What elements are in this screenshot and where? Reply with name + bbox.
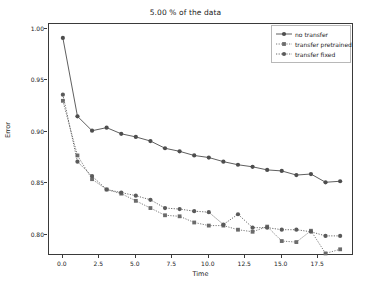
data-point-marker <box>163 146 167 150</box>
y-tick-label: 0.95 <box>14 76 44 83</box>
data-point-marker <box>236 163 240 167</box>
data-point-marker <box>134 135 138 139</box>
data-point-marker <box>134 194 138 198</box>
data-point-marker <box>119 132 123 136</box>
data-point-marker <box>105 126 109 130</box>
x-tick-mark <box>171 255 172 258</box>
y-tick-mark <box>44 79 47 80</box>
chart-legend: no transfertransfer pretrainedtransfer f… <box>271 25 351 63</box>
data-point-marker <box>265 226 269 230</box>
data-point-marker <box>119 190 123 194</box>
x-tick-mark <box>317 255 318 258</box>
y-tick-label: 0.80 <box>14 230 44 237</box>
data-point-marker <box>149 206 153 210</box>
x-tick-mark <box>208 255 209 258</box>
chart-title: 5.00 % of the data <box>0 8 371 17</box>
data-point-marker <box>148 139 152 143</box>
y-tick-label: 1.00 <box>14 24 44 31</box>
series-line <box>63 101 340 254</box>
x-tick-mark <box>244 255 245 258</box>
y-tick-mark <box>44 131 47 132</box>
data-point-marker <box>309 172 313 176</box>
data-point-marker <box>280 239 284 243</box>
x-axis-title: Time <box>48 270 353 278</box>
y-tick-label: 0.85 <box>14 179 44 186</box>
x-axis-tick-labels: 0.02.55.07.510.012.515.017.5 <box>48 256 353 270</box>
x-tick-label: 0.0 <box>47 260 77 267</box>
data-point-marker <box>236 212 240 216</box>
series-line <box>63 95 340 236</box>
x-tick-label: 5.0 <box>120 260 150 267</box>
y-tick-label: 0.90 <box>14 127 44 134</box>
data-point-marker <box>75 114 79 118</box>
data-point-marker <box>192 153 196 157</box>
data-point-marker <box>280 228 284 232</box>
data-point-marker <box>178 214 182 218</box>
legend-item: transfer pretrained <box>275 39 346 49</box>
data-point-marker <box>338 247 342 251</box>
x-tick-label: 10.0 <box>193 260 223 267</box>
data-point-marker <box>338 234 342 238</box>
data-point-marker <box>338 179 342 183</box>
legend-item: transfer fixed <box>275 49 346 59</box>
data-point-marker <box>294 240 298 244</box>
x-tick-mark <box>281 255 282 258</box>
legend-label: no transfer <box>293 31 328 38</box>
data-point-marker <box>324 252 328 256</box>
y-tick-mark <box>44 28 47 29</box>
data-point-marker <box>61 93 65 97</box>
data-point-marker <box>294 173 298 177</box>
x-tick-mark <box>135 255 136 258</box>
data-point-marker <box>134 199 138 203</box>
data-point-marker <box>207 155 211 159</box>
y-tick-mark <box>44 234 47 235</box>
x-tick-label: 2.5 <box>83 260 113 267</box>
data-point-marker <box>192 221 196 225</box>
data-point-marker <box>280 169 284 173</box>
x-tick-label: 12.5 <box>229 260 259 267</box>
series-transfer-fixed <box>61 93 342 238</box>
chart-figure: 5.00 % of the data Error Time 1.000.950.… <box>0 0 371 295</box>
y-axis-tick-labels: 1.000.950.900.850.80 <box>10 23 44 255</box>
data-point-marker <box>90 174 94 178</box>
data-point-marker <box>221 160 225 164</box>
x-tick-label: 15.0 <box>266 260 296 267</box>
data-point-marker <box>90 129 94 133</box>
data-point-marker <box>148 198 152 202</box>
data-point-marker <box>163 206 167 210</box>
data-point-marker <box>61 36 65 40</box>
y-tick-mark <box>44 182 47 183</box>
data-point-marker <box>163 213 167 217</box>
data-point-marker <box>178 207 182 211</box>
data-point-marker <box>207 224 211 228</box>
legend-line-sample <box>275 29 293 39</box>
data-point-marker <box>192 209 196 213</box>
legend-label: transfer fixed <box>293 51 335 58</box>
data-point-marker <box>294 228 298 232</box>
legend-item: no transfer <box>275 29 346 39</box>
legend-line-sample <box>275 49 293 59</box>
legend-label: transfer pretrained <box>293 41 352 48</box>
x-tick-label: 7.5 <box>156 260 186 267</box>
data-point-marker <box>323 234 327 238</box>
legend-line-sample <box>275 39 293 49</box>
data-point-marker <box>75 160 79 164</box>
data-point-marker <box>221 222 225 226</box>
x-tick-mark <box>62 255 63 258</box>
data-point-marker <box>323 180 327 184</box>
data-point-marker <box>250 226 254 230</box>
data-point-marker <box>265 168 269 172</box>
data-point-marker <box>207 210 211 214</box>
data-point-marker <box>178 149 182 153</box>
data-point-marker <box>309 230 313 234</box>
x-tick-label: 17.5 <box>302 260 332 267</box>
series-transfer-pretrained <box>61 99 342 255</box>
data-point-marker <box>251 230 255 234</box>
data-point-marker <box>236 228 240 232</box>
data-point-marker <box>250 165 254 169</box>
x-tick-mark <box>98 255 99 258</box>
data-point-marker <box>105 187 109 191</box>
